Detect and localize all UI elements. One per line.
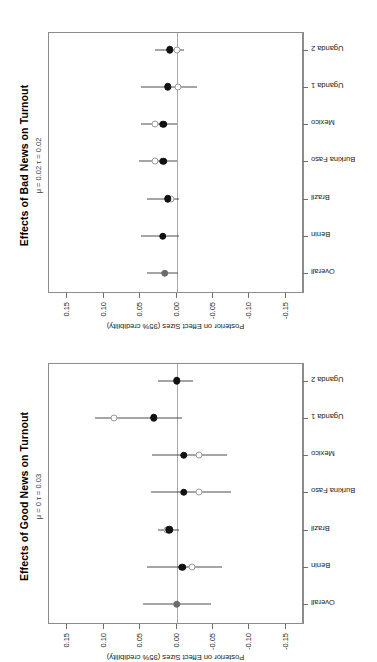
value-axis-tick (103, 293, 104, 298)
value-axis-tick (176, 293, 177, 298)
category-axis-tick-label: Brazil (311, 523, 330, 532)
category-axis-tick (303, 199, 308, 200)
category-axis-tick-label: Uganda 2 (311, 374, 344, 383)
value-axis-tick-label: -0.15 (280, 633, 289, 650)
category-axis-rule (303, 32, 304, 293)
category-axis-tick-label: Uganda 1 (311, 80, 344, 89)
posterior-estimate-point (165, 526, 173, 534)
category-axis-bad-news: OverallBeninBrazilBurkina FasoMexicoUgan… (303, 32, 309, 293)
value-axis-tick (66, 624, 67, 629)
posterior-estimate-point (160, 120, 168, 128)
value-axis-title-bad-news: Posterior on Effect Sizes (95% credibili… (48, 319, 303, 331)
value-axis-tick-label: -0.15 (280, 302, 289, 319)
value-axis-tick (285, 293, 286, 298)
value-axis-tick (248, 624, 249, 629)
category-axis-tick-label: Burkina Faso (311, 155, 355, 164)
raw-estimate-point (173, 46, 180, 53)
category-axis-tick (303, 87, 308, 88)
category-axis-tick-label: Benin (311, 230, 330, 239)
raw-estimate-point (110, 414, 117, 421)
panel-title-bad-news: Effects of Bad News on Turnout (18, 0, 30, 331)
raw-estimate-point (188, 564, 195, 571)
posterior-estimate-point (179, 563, 187, 571)
value-axis-tick-label: 0.05 (135, 302, 144, 317)
category-axis-tick-label: Burkina Faso (311, 486, 355, 495)
value-axis-good-news: -0.15-0.10-0.050.000.050.100.15 (48, 624, 303, 632)
credible-interval-bar (151, 492, 231, 493)
category-axis-tick (303, 162, 308, 163)
value-axis-tick (66, 293, 67, 298)
value-axis-tick-label: 0.00 (171, 302, 180, 317)
category-axis-tick-label: Benin (311, 561, 330, 570)
value-axis-tick (139, 293, 140, 298)
value-axis-tick-label: -0.10 (244, 633, 253, 650)
posterior-estimate-point (164, 83, 172, 91)
plot-area-bad-news (48, 32, 303, 293)
posterior-estimate-point (180, 489, 188, 497)
plot-area-good-news (48, 363, 303, 624)
value-axis-tick-label: 0.10 (98, 302, 107, 317)
category-axis-tick-label: Uganda 2 (311, 43, 344, 52)
posterior-estimate-point (161, 270, 169, 278)
value-axis-tick-label: -0.10 (244, 302, 253, 319)
zero-reference-line (177, 364, 178, 623)
value-axis-tick-label: 0.00 (171, 633, 180, 648)
category-axis-tick-label: Overall (311, 267, 335, 276)
category-axis-tick (303, 604, 308, 605)
category-axis-tick (303, 418, 308, 419)
posterior-estimate-point (173, 377, 181, 385)
category-axis-tick-label: Mexico (311, 118, 335, 127)
category-axis-tick (303, 236, 308, 237)
value-axis-tick-label: 0.15 (62, 302, 71, 317)
posterior-estimate-point (173, 601, 181, 609)
category-axis-tick (303, 381, 308, 382)
category-axis-good-news: OverallBeninBrazilBurkina FasoMexicoUgan… (303, 363, 309, 624)
panel-subtitle-good-news: μ = 0 τ = 0.03 (34, 331, 43, 662)
category-axis-tick (303, 567, 308, 568)
zero-reference-line (177, 33, 178, 292)
value-axis-tick (212, 624, 213, 629)
credible-interval-bar (95, 417, 182, 418)
category-axis-tick-label: Overall (311, 598, 335, 607)
value-axis-title-good-news: Posterior on Effect Sizes (95% credibili… (48, 650, 303, 662)
value-axis-tick-label: -0.05 (207, 302, 216, 319)
raw-estimate-point (151, 121, 158, 128)
panel-subtitle-bad-news: μ = 0.02 τ = 0.02 (34, 0, 43, 331)
raw-estimate-point (196, 489, 203, 496)
value-axis-tick (248, 293, 249, 298)
category-axis-tick (303, 455, 308, 456)
category-axis-tick (303, 530, 308, 531)
figure-canvas: Effects of Bad News on Turnout μ = 0.02 … (0, 0, 377, 662)
posterior-estimate-point (160, 158, 168, 166)
category-axis-tick-label: Mexico (311, 449, 335, 458)
value-axis-tick (212, 293, 213, 298)
value-axis-tick-label: 0.15 (62, 633, 71, 648)
category-axis-tick-label: Uganda 1 (311, 411, 344, 420)
value-axis-tick (176, 624, 177, 629)
posterior-estimate-point (150, 414, 158, 422)
credible-interval-bar (139, 161, 177, 162)
value-axis-tick-label: -0.05 (207, 633, 216, 650)
value-axis-tick-label: 0.05 (135, 633, 144, 648)
posterior-estimate-point (159, 232, 167, 240)
category-axis-tick (303, 493, 308, 494)
value-axis-tick (103, 624, 104, 629)
value-axis-tick-label: 0.10 (98, 633, 107, 648)
value-axis-tick (285, 624, 286, 629)
panel-title-good-news: Effects of Good News on Turnout (18, 331, 30, 662)
category-axis-tick (303, 50, 308, 51)
category-axis-tick-label: Brazil (311, 192, 330, 201)
category-axis-rule (303, 363, 304, 624)
posterior-estimate-point (180, 451, 188, 459)
posterior-estimate-point (166, 46, 174, 54)
posterior-estimate-point (164, 195, 172, 203)
value-axis-tick (139, 624, 140, 629)
raw-estimate-point (174, 83, 181, 90)
credible-interval-bar (152, 455, 228, 456)
category-axis-tick (303, 124, 308, 125)
panel-good-news: Effects of Good News on Turnout μ = 0 τ … (0, 331, 377, 662)
panel-bad-news: Effects of Bad News on Turnout μ = 0.02 … (0, 0, 377, 331)
category-axis-tick (303, 273, 308, 274)
value-axis-bad-news: -0.15-0.10-0.050.000.050.100.15 (48, 293, 303, 301)
raw-estimate-point (151, 158, 158, 165)
